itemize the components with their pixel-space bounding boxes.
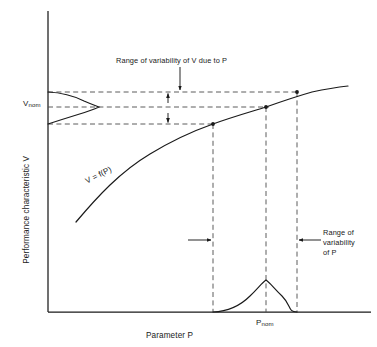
- annotation-p-range: Range ofvariabilityof P: [323, 228, 355, 259]
- annotation-v-range: Range of variability of V due to P: [116, 57, 227, 66]
- annotation-p-range-line2: variability: [323, 238, 355, 247]
- vertical-reference-lines: [213, 92, 297, 312]
- annotation-p-range-line3: of P: [323, 248, 337, 257]
- performance-characteristic-diagram: Range of variability of V due to P Range…: [0, 0, 377, 347]
- p-nom-subscript: nom: [261, 320, 273, 327]
- v-distribution-curve: [48, 92, 99, 124]
- operating-point-upper: [295, 90, 299, 94]
- operating-point-lower: [211, 122, 215, 126]
- p-nom-label: Pnom: [256, 318, 274, 328]
- operating-point-nominal: [264, 105, 268, 109]
- p-distribution-curve: [213, 280, 297, 312]
- v-nom-label: Vnom: [23, 99, 41, 109]
- v-nom-subscript: nom: [28, 101, 40, 108]
- diagram-canvas: [0, 0, 377, 347]
- annotation-p-range-line1: Range of: [323, 228, 354, 237]
- transfer-characteristic-curve: [76, 86, 348, 222]
- x-axis-label: Parameter P: [146, 331, 193, 341]
- y-axis-label: Performance characteristic V: [22, 115, 32, 305]
